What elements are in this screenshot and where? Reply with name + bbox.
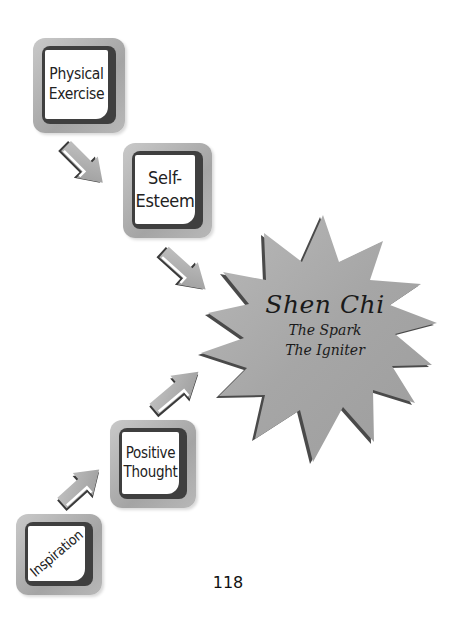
box-label-line1: Positive <box>126 444 176 463</box>
box-face: Self- Esteem <box>135 155 195 224</box>
physical-exercise-box: Physical Exercise <box>33 38 125 133</box>
box-frame: Inspiration <box>25 522 93 586</box>
arrow-up-right-icon <box>143 360 210 423</box>
arrow-down-right-icon <box>53 134 114 195</box>
box-frame: Positive Thought <box>119 428 187 499</box>
box-frame: Self- Esteem <box>132 151 203 229</box>
box-label-line2: Esteem <box>136 190 195 213</box>
star-title: Shen Chi <box>250 290 400 320</box>
positive-thought-box: Positive Thought <box>110 420 196 508</box>
star-subtitle-1: The Spark <box>250 320 400 340</box>
arrow-down-right-icon <box>151 240 216 303</box>
box-label-line2: Exercise <box>49 85 105 104</box>
box-face: Positive Thought <box>122 432 179 494</box>
box-label-line1: Physical <box>49 65 103 84</box>
box-label: Inspiration <box>27 526 87 580</box>
inspiration-box: Inspiration <box>16 514 102 595</box>
star-label: Shen Chi The Spark The Igniter <box>250 290 400 360</box>
self-esteem-box: Self- Esteem <box>123 143 212 238</box>
box-label-line2: Thought <box>124 463 178 482</box>
arrow-up-right-icon <box>50 458 110 517</box>
page-number: 118 <box>208 573 248 592</box>
box-face: Physical Exercise <box>45 50 108 119</box>
box-label-line1: Self- <box>148 167 182 190</box>
box-frame: Physical Exercise <box>42 46 116 124</box>
star-subtitle-2: The Igniter <box>250 340 400 360</box>
box-face: Inspiration <box>28 526 85 581</box>
